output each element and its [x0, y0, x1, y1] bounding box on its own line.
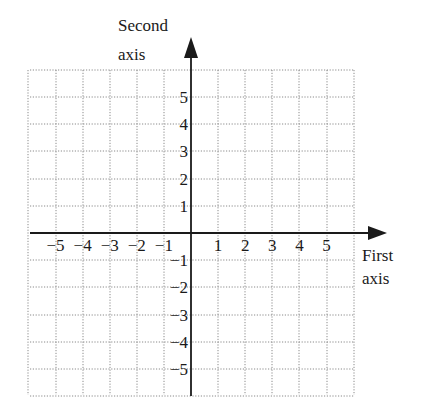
y-axis-label-line1: Second: [118, 16, 169, 35]
x-axis-label-line1: First: [362, 246, 393, 265]
x-tick-label: 2: [241, 236, 250, 255]
x-tick-label: −4: [74, 236, 93, 255]
y-tick-label: −5: [170, 360, 188, 379]
y-axis-arrow-icon: [184, 37, 198, 58]
y-tick-label: 3: [180, 142, 189, 161]
y-axis-label-line2: axis: [118, 45, 145, 64]
x-axis-arrow-icon: [368, 226, 387, 240]
y-tick-label: 5: [180, 88, 189, 107]
y-tick-label: −1: [170, 251, 188, 270]
x-tick-label: 3: [268, 236, 277, 255]
y-tick-label: 4: [180, 115, 189, 134]
coordinate-plane: −5−4−3−2−11234554321−1−2−3−4−5 Second ax…: [0, 0, 423, 412]
x-axis-label-line2: axis: [362, 269, 389, 288]
x-tick-label: 1: [214, 236, 223, 255]
x-tick-label: 4: [295, 236, 304, 255]
y-tick-label: −3: [170, 306, 188, 325]
x-tick-label: −5: [46, 236, 64, 255]
y-tick-label: 2: [180, 170, 189, 189]
x-tick-label: −3: [101, 236, 119, 255]
x-tick-label: 5: [322, 236, 331, 255]
y-tick-label: 1: [180, 197, 189, 216]
x-tick-label: −2: [128, 236, 146, 255]
y-tick-label: −4: [170, 333, 189, 352]
y-tick-label: −2: [170, 278, 188, 297]
